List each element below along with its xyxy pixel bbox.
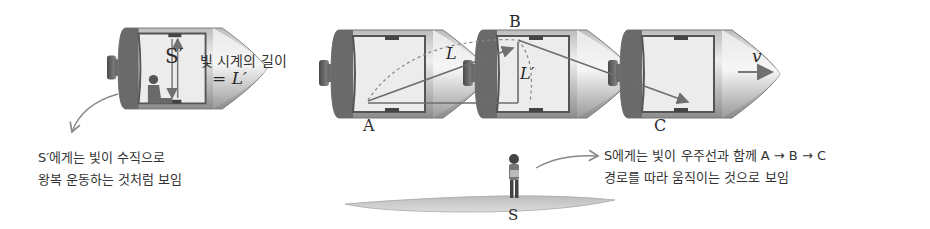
velocity-label: v <box>752 46 762 66</box>
point-c-label: C <box>654 116 666 135</box>
right-caption: S에게는 빛이 우주선과 함께 A → B → C 경로를 따라 움직이는 것으… <box>604 145 826 189</box>
right-caption-line: S에게는 빛이 우주선과 함께 A → B → C <box>604 145 826 167</box>
light-clock-diagram: S′ 빛 시계의 길이 = L′ S′에게는 빛이 수직으로 왕복 운동하는 것… <box>0 0 930 229</box>
clock-length-value: = L′ <box>212 68 247 88</box>
diagram-graphics <box>0 0 930 229</box>
ground-observer-label: S <box>508 206 518 224</box>
left-caption: S′에게는 빛이 수직으로 왕복 운동하는 것처럼 보임 <box>38 147 182 191</box>
right-caption-line: 경로를 따라 움직이는 것으로 보임 <box>604 167 826 189</box>
vertical-length-label: L′ <box>520 64 534 83</box>
diagonal-length-label: L <box>446 44 457 63</box>
left-caption-line: 왕복 운동하는 것처럼 보임 <box>38 169 182 191</box>
observer-label-s-prime: S′ <box>165 44 183 68</box>
point-a-label: A <box>363 116 375 135</box>
ground <box>345 196 615 212</box>
spaceship-position-c <box>608 30 780 118</box>
ground-observer-figure <box>509 154 519 198</box>
left-caption-line: S′에게는 빛이 수직으로 <box>38 147 182 169</box>
clock-length-label: 빛 시계의 길이 <box>200 50 287 70</box>
point-b-label: B <box>509 12 521 31</box>
